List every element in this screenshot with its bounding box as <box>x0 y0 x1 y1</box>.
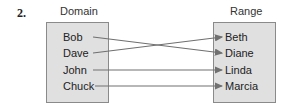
mapping-arrows <box>0 0 286 112</box>
